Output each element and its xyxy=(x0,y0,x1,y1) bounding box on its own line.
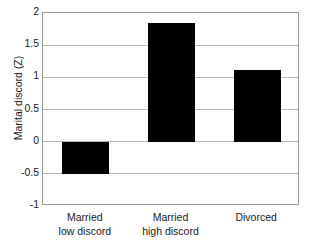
x-axis-category-label-line: low discord xyxy=(42,224,128,238)
y-axis-tick-label: 1 xyxy=(0,70,39,80)
x-axis-category-label-line: Married xyxy=(42,210,128,224)
bar xyxy=(234,70,281,142)
x-axis-category-label: Marriedlow discord xyxy=(42,210,128,238)
y-axis-tick-label: -0.5 xyxy=(0,167,39,177)
y-axis-tick-label: 0.5 xyxy=(0,103,39,113)
y-axis-tick-labels: 21.510.50-0.5-1 xyxy=(0,0,39,249)
bar-chart-figure: Marital discord (Z) 21.510.50-0.5-1 Marr… xyxy=(0,0,321,249)
x-axis-category-label-line: high discord xyxy=(128,224,214,238)
x-axis-category-label: Marriedhigh discord xyxy=(128,210,214,238)
x-axis-category-label: Divorced xyxy=(213,210,299,224)
y-axis-tick-label: 0 xyxy=(0,135,39,145)
bar xyxy=(62,142,109,174)
y-axis-tick-label: 2 xyxy=(0,6,39,16)
y-axis-tick-label: -1 xyxy=(0,199,39,209)
x-axis-category-labels: Marriedlow discordMarriedhigh discordDiv… xyxy=(42,210,299,249)
x-axis-category-label-line: Married xyxy=(128,210,214,224)
plot-area xyxy=(42,12,299,205)
x-axis-category-label-line: Divorced xyxy=(213,210,299,224)
bar xyxy=(148,23,195,142)
y-axis-tick-label: 1.5 xyxy=(0,38,39,48)
